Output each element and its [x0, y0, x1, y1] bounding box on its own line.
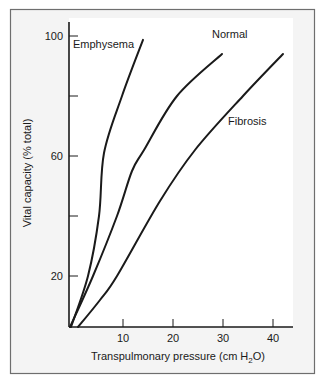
series-label-normal: Normal — [212, 28, 247, 40]
x-tick-label: 10 — [117, 332, 129, 344]
y-axis-title: Vital capacity (% total) — [21, 119, 33, 228]
series-label-emphysema: Emphysema — [73, 38, 135, 50]
x-tick-label: 20 — [167, 332, 179, 344]
x-tick-label: 40 — [267, 332, 279, 344]
series-label-fibrosis: Fibrosis — [228, 115, 267, 127]
y-tick-label: 100 — [45, 30, 63, 42]
y-tick-label: 60 — [51, 150, 63, 162]
x-tick-label: 30 — [217, 332, 229, 344]
chart: 10203040 2060100 EmphysemaNormalFibrosis… — [0, 0, 319, 382]
y-tick-label: 20 — [51, 270, 63, 282]
